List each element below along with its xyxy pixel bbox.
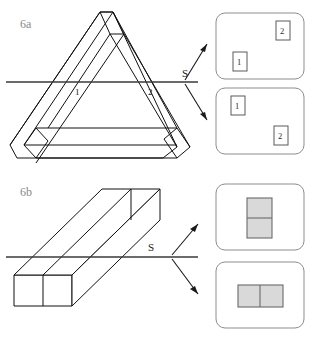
arrow-down-right-6b: [172, 259, 198, 294]
rectangular-prism: [14, 189, 160, 306]
result-card-6a-bottom-frame[interactable]: [216, 88, 304, 154]
figure-root: 6a: [0, 0, 310, 343]
edge-label-2-6a: 2: [148, 87, 153, 97]
arrow-up-right-6a: [185, 44, 207, 80]
result-6a-top-item-1: 1: [233, 52, 247, 71]
technical-figure: 6a: [0, 0, 310, 343]
section-plane-label-6b: S: [148, 241, 154, 253]
result-card-6b-top[interactable]: [216, 184, 304, 250]
panel-label-6a: 6a: [20, 17, 32, 31]
result-6a-bottom-item-1: 1: [231, 96, 245, 115]
result-card-6a-top[interactable]: 2 1: [216, 13, 304, 79]
arrow-up-right-6b: [172, 224, 198, 255]
result-6a-top-num-1: 1: [237, 57, 241, 67]
cross-section-horizontal: [238, 285, 283, 307]
result-6a-top-num-2: 2: [280, 26, 284, 36]
result-6a-top-item-2: 2: [276, 21, 290, 40]
cross-section-vertical: [247, 198, 272, 238]
edge-label-1-6a: 1: [75, 87, 80, 97]
result-6a-bottom-num-2: 2: [278, 131, 282, 141]
result-card-6b-bottom[interactable]: [216, 262, 304, 328]
tribar-outer-silhouette: [10, 12, 177, 158]
result-card-6a-top-frame[interactable]: [216, 13, 304, 79]
panel-6a: 6a: [6, 12, 304, 163]
result-card-6a-bottom[interactable]: 1 2: [216, 88, 304, 154]
result-6a-bottom-num-1: 1: [235, 101, 239, 111]
penrose-triangle: [10, 12, 190, 163]
panel-6b: 6b S: [6, 184, 304, 328]
panel-label-6b: 6b: [20, 185, 32, 199]
result-6a-bottom-item-2: 2: [274, 126, 288, 145]
arrow-down-right-6a: [185, 84, 207, 120]
